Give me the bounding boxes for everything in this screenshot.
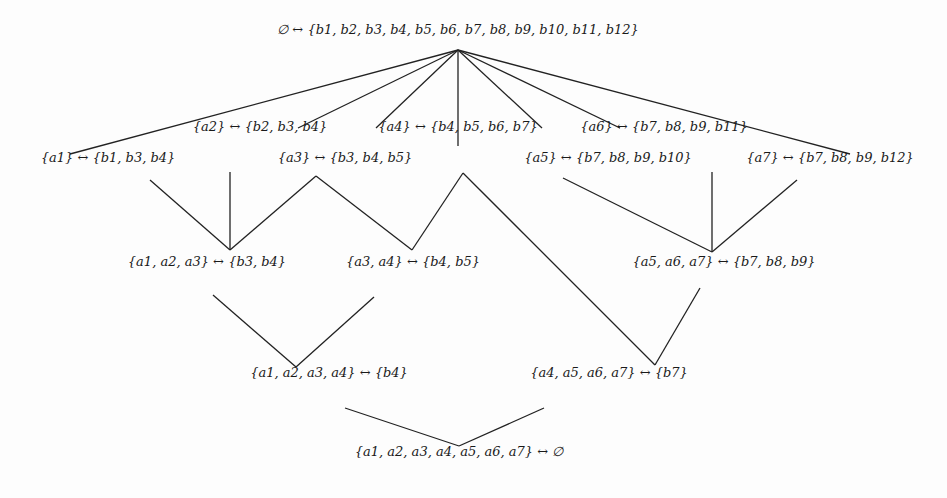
lattice-edge	[70, 50, 458, 154]
lattice-edge	[412, 173, 463, 250]
lattice-edge	[463, 173, 655, 365]
lattice-edge	[376, 50, 458, 128]
node-a7: {a7} ↔ {b7, b8, b9, b12}	[746, 150, 914, 166]
lattice-edge	[296, 297, 374, 367]
lattice-edge	[298, 50, 458, 128]
lattice-edge	[150, 180, 230, 250]
lattice-edge	[563, 178, 712, 252]
node-a3-a4: {a3, a4} ↔ {b4, b5}	[346, 254, 480, 270]
node-bottom: {a1, a2, a3, a4, a5, a6, a7} ↔ ∅	[355, 444, 563, 460]
lattice-edges	[0, 0, 947, 498]
node-a4: {a4} ↔ {b4, b5, b6, b7}	[378, 119, 537, 135]
node-a6: {a6} ↔ {b7, b8, b9, b11}	[580, 119, 748, 135]
lattice-edge	[655, 288, 700, 365]
node-top: ∅ ↔ {b1, b2, b3, b4, b5, b6, b7, b8, b9,…	[277, 22, 639, 38]
node-a1: {a1} ↔ {b1, b3, b4}	[41, 150, 176, 166]
node-a1-a2-a3-a4: {a1, a2, a3, a4} ↔ {b4}	[250, 365, 408, 381]
node-a5-a6-a7: {a5, a6, a7} ↔ {b7, b8, b9}	[632, 254, 815, 270]
lattice-edge	[230, 176, 316, 250]
lattice-edge	[712, 180, 797, 252]
node-a1-a2-a3: {a1, a2, a3} ↔ {b3, b4}	[128, 254, 286, 270]
node-a3: {a3} ↔ {b3, b4, b5}	[278, 150, 413, 166]
lattice-edge	[316, 176, 412, 250]
lattice-edge	[458, 50, 850, 154]
lattice-edge	[213, 295, 296, 367]
lattice-edge	[458, 50, 620, 128]
node-a5: {a5} ↔ {b7, b8, b9, b10}	[524, 150, 692, 166]
node-a4-a5-a6-a7: {a4, a5, a6, a7} ↔ {b7}	[530, 365, 688, 381]
lattice-edge	[459, 408, 544, 446]
node-a2: {a2} ↔ {b2, b3, b4}	[193, 119, 328, 135]
lattice-edge	[345, 408, 459, 446]
concept-lattice-diagram: ∅ ↔ {b1, b2, b3, b4, b5, b6, b7, b8, b9,…	[0, 0, 947, 498]
